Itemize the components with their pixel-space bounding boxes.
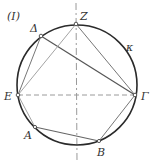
point-e [16, 93, 20, 97]
point-b [97, 139, 100, 142]
segment-a-b [35, 127, 99, 141]
label-delta: Δ [29, 22, 38, 35]
label-a: A [23, 129, 32, 142]
point-delta [39, 34, 43, 38]
vertical-axis-dashed [76, 3, 77, 161]
segment-e-a [18, 95, 35, 127]
point-gamma [133, 93, 137, 97]
segment-b-gamma [99, 95, 135, 141]
label-b: B [96, 146, 105, 159]
point-z [74, 22, 78, 26]
segment-z-gamma [76, 24, 135, 95]
segment-z-e [18, 24, 76, 95]
label-kappa: κ [125, 41, 134, 54]
label-e: E [3, 90, 12, 103]
point-a [33, 125, 36, 128]
inscribed-polygon-diagram: (I) Z Δ E Γ A B κ [0, 0, 157, 164]
label-gamma: Γ [140, 90, 149, 103]
segment-delta-e [18, 36, 41, 95]
label-z: Z [79, 10, 88, 23]
figure-label: (I) [7, 10, 20, 23]
